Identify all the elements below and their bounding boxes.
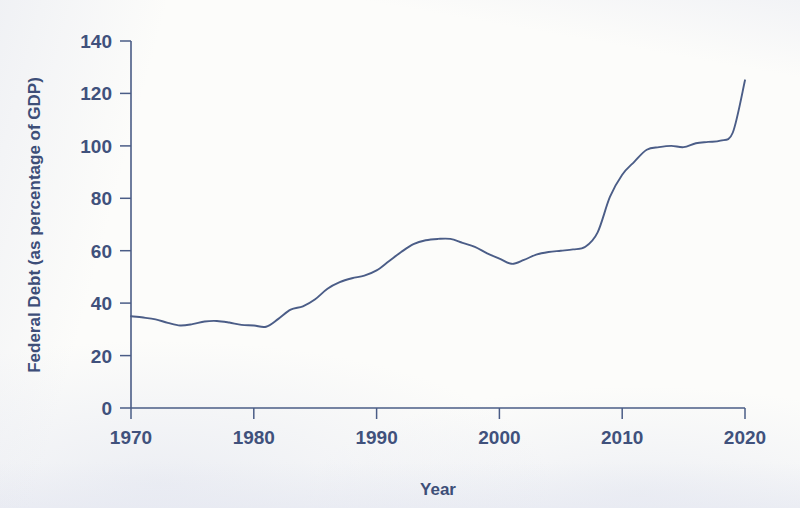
- x-tick-label-1990: 1990: [355, 427, 397, 448]
- y-tick-label-60: 60: [91, 241, 112, 262]
- y-axis-tick-labels: 0 20 40 60 80 100 120 140: [80, 31, 112, 419]
- x-axis-ticks: [131, 408, 745, 419]
- y-tick-label-100: 100: [80, 136, 112, 157]
- y-tick-label-20: 20: [91, 346, 112, 367]
- y-tick-label-80: 80: [91, 188, 112, 209]
- y-axis-ticks: [120, 41, 131, 408]
- y-tick-label-120: 120: [80, 83, 112, 104]
- line-chart-plot: Federal Debt (as percentage of GDP) Year…: [0, 0, 800, 508]
- y-tick-label-140: 140: [80, 31, 112, 52]
- x-tick-label-2020: 2020: [724, 427, 766, 448]
- debt-series-line: [131, 80, 745, 327]
- x-tick-label-1970: 1970: [110, 427, 152, 448]
- y-tick-label-40: 40: [91, 293, 112, 314]
- y-axis-title: Federal Debt (as percentage of GDP): [25, 77, 44, 373]
- x-axis-tick-labels: 1970 1980 1990 2000 2010 2020: [110, 427, 766, 448]
- y-tick-label-0: 0: [101, 398, 112, 419]
- x-tick-label-1980: 1980: [233, 427, 275, 448]
- chart-figure: Federal Debt (as percentage of GDP) Year…: [0, 0, 800, 508]
- x-tick-label-2010: 2010: [601, 427, 643, 448]
- x-tick-label-2000: 2000: [478, 427, 520, 448]
- x-axis-title: Year: [420, 480, 456, 499]
